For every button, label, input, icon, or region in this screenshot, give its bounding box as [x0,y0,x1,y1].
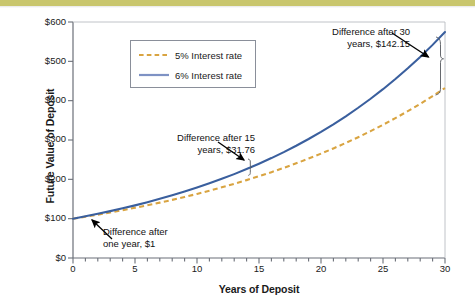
legend-swatch-dashed-icon [139,49,169,61]
annotation-difference-15-years: Difference after 15 years, $31.76 [137,132,255,156]
x-tick-label: 10 [182,264,212,274]
y-tick-label: $600 [22,17,66,27]
y-axis-title: Future Value of Deposit [44,51,56,241]
annotation-difference-one-year: Difference after one year, $1 [103,226,223,250]
legend-entry-6-percent: 6% Interest rate [131,65,257,85]
series-line-6-percent [73,32,445,219]
x-tick-label: 25 [368,264,398,274]
x-axis-title: Years of Deposit [73,283,445,295]
axis-spines [73,22,445,258]
chart-figure: $600 $500 $400 $300 $200 $100 $0 0 5 10 … [0,0,475,304]
y-axis-ticks [68,22,73,258]
y-tick-label: $0 [22,253,66,263]
x-tick-label: 5 [120,264,150,274]
x-tick-label: 20 [306,264,336,274]
annotation-difference-30-years: Difference after 30 years, $142.15 [288,26,410,50]
data-curves [73,32,445,219]
x-tick-label: 30 [430,264,460,274]
bracket-30yr [436,37,444,95]
chart-legend: 5% Interest rate 6% Interest rate [130,40,256,88]
x-tick-label: 0 [58,264,88,274]
legend-entry-5-percent: 5% Interest rate [131,45,257,65]
series-line-5-percent [73,88,445,219]
legend-label: 6% Interest rate [175,70,242,81]
x-tick-label: 15 [244,264,274,274]
legend-swatch-solid-icon [139,69,169,81]
legend-label: 5% Interest rate [175,50,242,61]
